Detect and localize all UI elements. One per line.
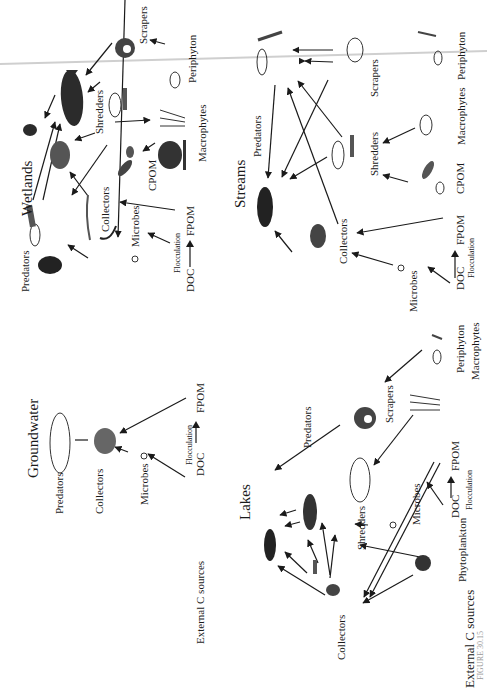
panel-title-lakes: Lakes	[238, 484, 253, 520]
lakes-label-collectors: Collectors	[336, 615, 347, 660]
wetlands-label-doc: DOC	[185, 269, 196, 292]
groundwater-label-external-sources: External C sources	[195, 561, 206, 644]
lakes-label-flocculation: Flocculation	[466, 470, 474, 510]
groundwater-label-fpom: FPOM	[195, 383, 206, 413]
wetlands-label-shredders: Shredders	[94, 90, 105, 134]
lakes-label-macrophytes: Macrophytes	[470, 323, 481, 380]
wetlands-label-macrophytes: Macrophytes	[197, 105, 208, 162]
streams-label-flocculation: Flocculation	[468, 238, 476, 278]
groundwater-label-collectors: Collectors	[94, 469, 105, 514]
groundwater-label-microbes: Microbes	[139, 463, 150, 505]
lakes-label-scrapers: Scrapers	[384, 385, 395, 423]
organism-icons	[23, 32, 444, 596]
streams-label-collectors: Collectors	[338, 219, 349, 264]
panel-title-streams: Streams	[233, 160, 248, 208]
figure-caption-fragment: FIGURE 30.15	[477, 631, 485, 680]
streams-label-macrophytes: Macrophytes	[456, 88, 467, 145]
streams-label-doc: DOC	[455, 267, 466, 290]
lakes-label-external-sources: External C sources	[463, 590, 476, 688]
wetlands-label-periphyton: Periphyton	[187, 35, 198, 83]
groundwater-label-flocculation: Flocculation	[186, 425, 194, 465]
wetlands-label-collectors: Collectors	[100, 187, 111, 232]
wetlands-label-fpom: FPOM	[185, 206, 196, 236]
wetlands-label-microbes: Microbes	[130, 205, 141, 247]
wetlands-label-flocculation: Flocculation	[174, 233, 182, 273]
lakes-label-microbes: Microbes	[411, 483, 422, 525]
lakes-label-periphyton: Periphyton	[455, 325, 466, 373]
wetlands-label-predators: Predators	[20, 250, 31, 292]
lakes-label-predators: Predators	[302, 406, 313, 448]
groundwater-label-doc: DOC	[195, 453, 206, 476]
lakes-label-phytoplankton: Phytoplankton	[457, 518, 468, 582]
panel-title-groundwater: Groundwater	[26, 399, 41, 478]
streams-label-cpom: CPOM	[455, 163, 466, 194]
lakes-label-doc: DOC	[450, 495, 461, 518]
panel-title-wetlands: Wetlands	[20, 161, 35, 216]
wetlands-label-scrapers: Scrapers	[138, 6, 149, 44]
lakes-label-fpom: FPOM	[450, 441, 461, 471]
groundwater-label-predators: Predators	[54, 472, 65, 514]
streams-label-shredders: Shredders	[369, 132, 380, 176]
food-web-arrows	[0, 0, 487, 690]
streams-label-fpom: FPOM	[455, 215, 466, 245]
streams-label-periphyton: Periphyton	[456, 32, 467, 80]
streams-label-predators: Predators	[252, 115, 263, 157]
streams-label-scrapers: Scrapers	[369, 59, 380, 97]
streams-label-microbes: Microbes	[408, 270, 419, 312]
wetlands-label-cpom: CPOM	[147, 160, 158, 191]
lakes-label-shredders: Shredders	[356, 506, 367, 550]
